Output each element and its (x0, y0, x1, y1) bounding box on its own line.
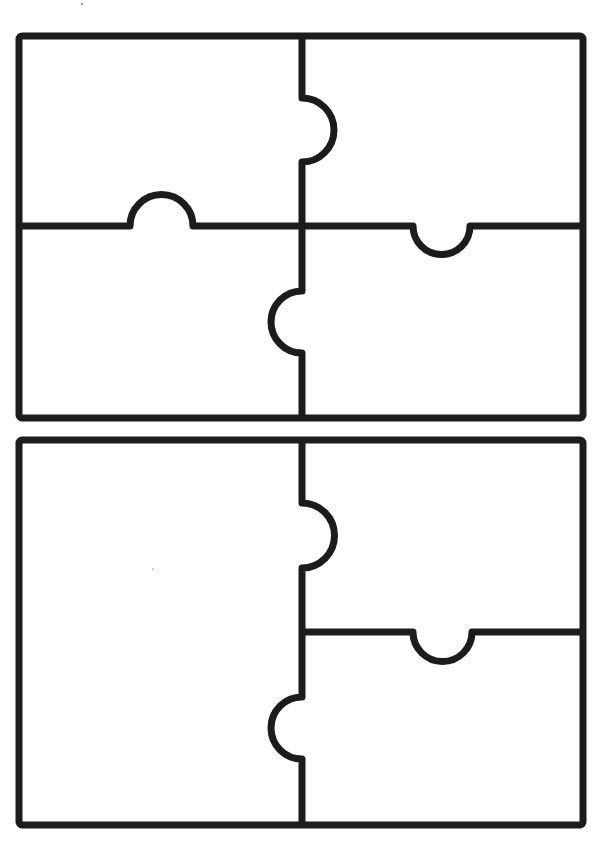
page-background (0, 0, 610, 856)
stray-mark-top (81, 3, 83, 5)
puzzle-template-canvas (0, 0, 610, 856)
stray-mark-bottom-left (152, 568, 154, 570)
